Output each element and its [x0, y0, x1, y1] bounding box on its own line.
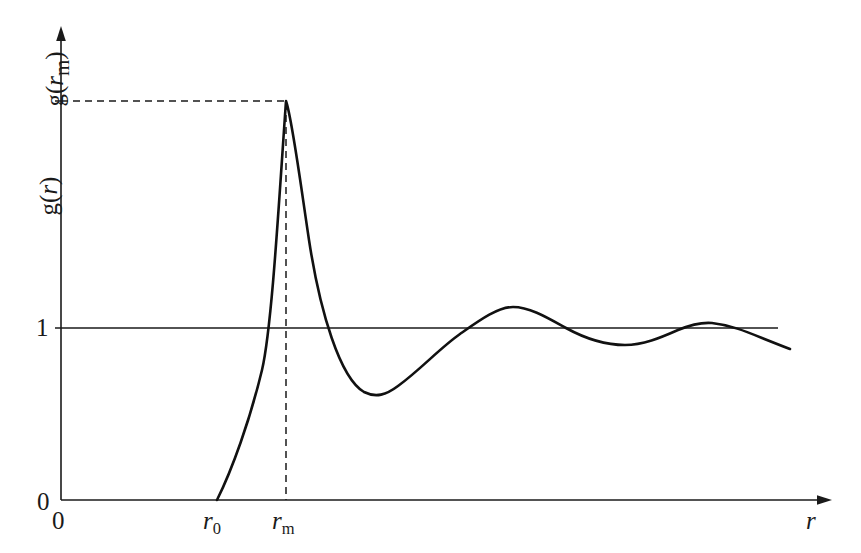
gr-fn-glyph: g [35, 203, 62, 216]
x-origin-label-zero: 0 [52, 508, 65, 533]
y-axis-label-g-of-rm: g(rm) [30, 62, 54, 150]
rm-var-glyph: r [272, 507, 282, 534]
radial-distribution-function-figure: g(r) g(rm) 1 0 0 r0 rm r [0, 0, 861, 553]
grm-var-glyph: r [41, 76, 68, 86]
y-axis-title-g-of-r: g(r) [30, 182, 54, 250]
rm-sub-glyph: m [282, 519, 295, 538]
grm-open-paren: ( [41, 86, 68, 94]
r-axis-var-glyph: r [806, 507, 816, 534]
x-tick-label-r-zero: r0 [203, 508, 221, 533]
grm-close-paren: ) [41, 51, 68, 59]
y-axis-title-g-of-r-text: g(r) [35, 177, 63, 216]
gr-var-glyph: r [35, 185, 62, 195]
gr-close-paren: ) [35, 177, 62, 185]
y-origin-label-zero: 0 [37, 489, 50, 514]
x-axis-arrow-icon [817, 495, 832, 505]
x-tick-label-r-m: rm [272, 508, 295, 533]
r0-sub-glyph: 0 [213, 519, 221, 538]
plot-canvas [0, 0, 861, 553]
y-axis-label-g-of-rm-text: g(rm) [41, 51, 75, 106]
r0-var-glyph: r [203, 507, 213, 534]
grm-fn-glyph: g [41, 94, 68, 107]
rdf-curve-path [217, 101, 790, 500]
y-axis-arrow-icon [56, 26, 66, 41]
grm-sub-glyph: m [50, 60, 74, 76]
y-tick-label-one: 1 [36, 315, 49, 340]
gr-open-paren: ( [35, 195, 62, 203]
x-axis-title-r: r [806, 508, 816, 533]
